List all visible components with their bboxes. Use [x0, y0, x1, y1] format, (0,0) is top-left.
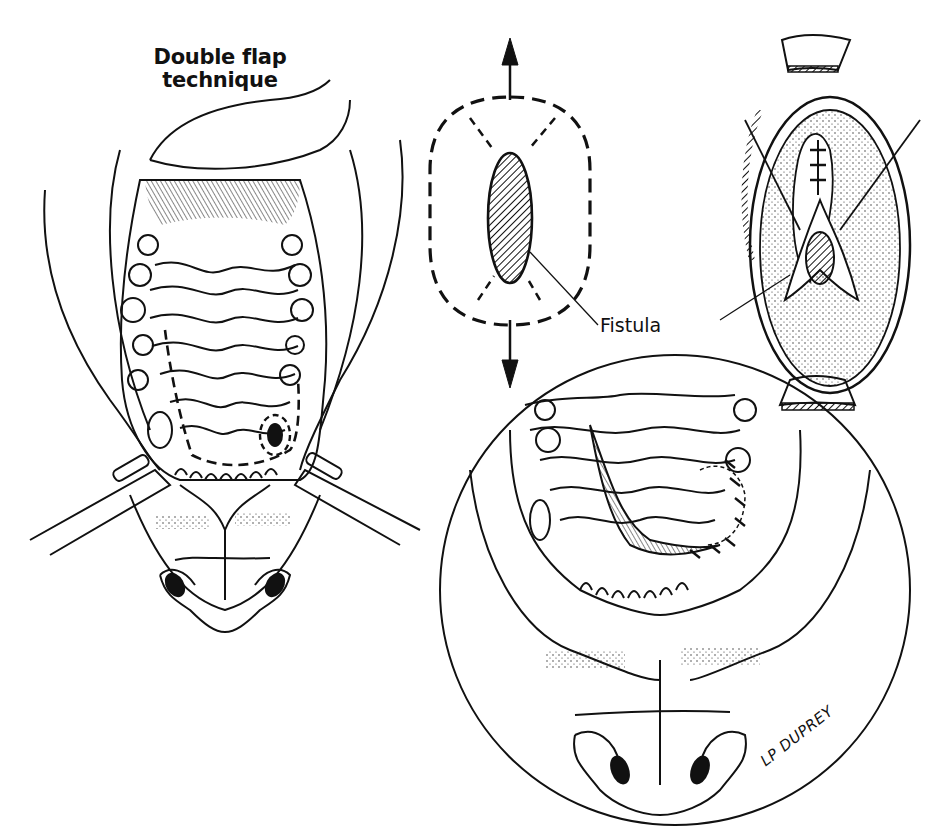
arrow-down-icon [502, 360, 518, 388]
fistula-label: Fistula [600, 314, 661, 336]
panel-result [440, 355, 910, 825]
title-line-2: technique [120, 69, 320, 92]
fistula-shape [488, 153, 532, 283]
panel-overview [30, 80, 420, 632]
arrow-up-icon [502, 38, 518, 65]
illustration-canvas [0, 0, 938, 840]
fistula-leader-line [530, 252, 598, 325]
title-line-1: Double flap [120, 46, 320, 69]
panel-closure-detail [720, 35, 920, 410]
panel-schematic [430, 38, 598, 388]
figure-title: Double flap technique [120, 46, 320, 92]
